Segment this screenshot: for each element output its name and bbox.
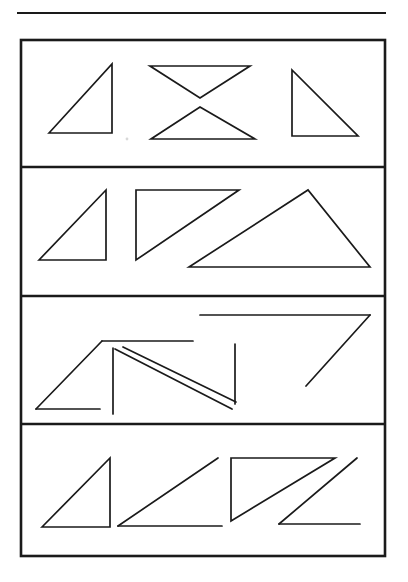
scan-speck <box>126 138 129 141</box>
figure-canvas <box>0 0 408 582</box>
segment-diagonal-lower <box>123 347 236 402</box>
open-triangle-sliver-center <box>113 344 236 414</box>
triangle-closed-right-angle-bottom-right <box>42 458 110 527</box>
row-2 <box>39 190 370 267</box>
figure-frame <box>21 40 385 556</box>
triangle-right-apex-top-left <box>292 70 358 136</box>
segment-diagonal-upper <box>115 349 232 409</box>
triangle-upright-bottom <box>151 107 255 139</box>
open-seven-shape-right <box>200 315 370 386</box>
segment-diagonal <box>36 341 102 409</box>
open-wedge-missing-vertical <box>118 458 222 526</box>
triangle-right-apex-top-right <box>49 64 112 133</box>
row-4 <box>42 458 360 527</box>
segment-hypotenuse <box>118 458 218 526</box>
open-triangle-gapped-left <box>36 341 193 409</box>
triangle-small-right-apex-top-right <box>39 190 106 260</box>
document-page <box>0 0 408 582</box>
row-3 <box>36 315 370 414</box>
triangle-inverted-top <box>150 66 250 98</box>
triangle-obtuse-wide <box>189 190 370 267</box>
segment-diagonal-stem <box>306 315 370 386</box>
row-1 <box>49 64 358 139</box>
triangle-right-apex-top-right-tall <box>136 190 239 260</box>
